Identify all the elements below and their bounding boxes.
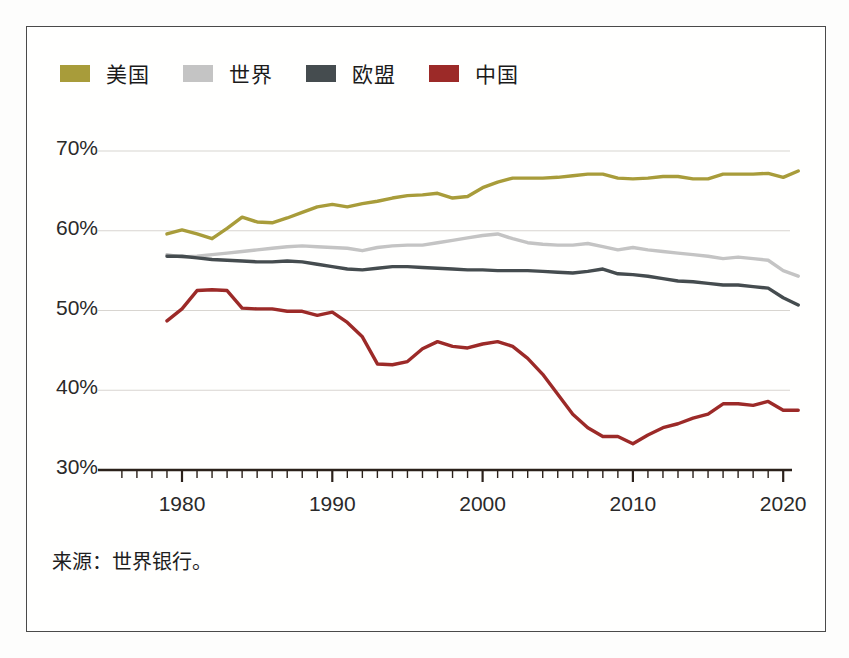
x-axis-tick-label: 1980 <box>142 492 222 516</box>
source-note: 来源：世界银行。 <box>52 546 212 575</box>
series-line-2 <box>167 256 798 305</box>
y-axis-tick-label: 60% <box>36 216 98 240</box>
x-axis-tick-label: 2000 <box>443 492 523 516</box>
y-axis-tick-label: 50% <box>36 296 98 320</box>
x-axis-tick-label: 2020 <box>743 492 823 516</box>
series-line-3 <box>167 290 798 444</box>
chart-figure: 美国 世界 欧盟 中国 70%60%50%40%30% 198019902000… <box>0 0 849 658</box>
x-axis-tick-label: 2010 <box>593 492 673 516</box>
series-line-0 <box>167 171 798 239</box>
y-axis-tick-label: 70% <box>36 136 98 160</box>
x-axis-tick-label: 1990 <box>292 492 372 516</box>
y-axis-tick-label: 30% <box>36 455 98 479</box>
y-axis-tick-label: 40% <box>36 375 98 399</box>
